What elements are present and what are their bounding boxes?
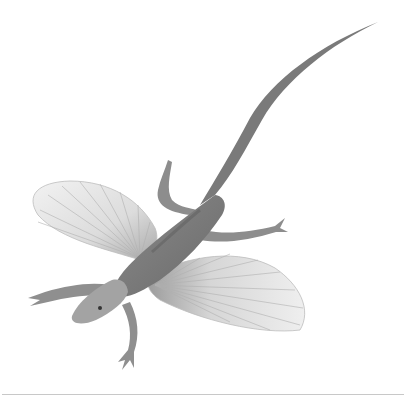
horizontal-rule bbox=[2, 394, 404, 395]
eye bbox=[98, 306, 102, 310]
front-leg-lower bbox=[118, 302, 137, 370]
gliding-lizard-illustration bbox=[0, 0, 408, 405]
hind-leg-upper bbox=[158, 160, 196, 215]
tail bbox=[200, 22, 378, 205]
